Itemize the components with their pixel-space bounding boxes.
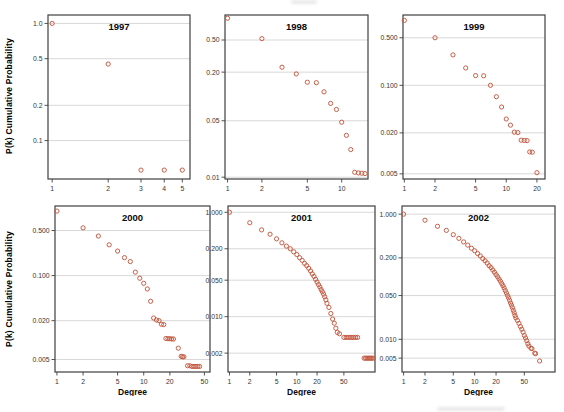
- data-point: [334, 326, 338, 330]
- y-tick-label: 0.200: [205, 245, 222, 252]
- plot-frame: [48, 15, 190, 179]
- data-point: [327, 305, 331, 309]
- y-tick-label: 0.20: [206, 69, 219, 76]
- y-tick-label: 0.050: [205, 277, 222, 284]
- x-axis-ticks: 12510: [226, 179, 346, 192]
- data-point: [423, 218, 427, 222]
- chart-1997: 1.00.50.20.1123451997: [18, 10, 195, 203]
- data-point: [334, 107, 338, 111]
- data-point: [435, 224, 439, 228]
- chart-2000: 0.5000.1000.0200.0051251020502000Degree: [25, 201, 215, 396]
- panel-2002: 1.0000.2000.0500.0100.0051251020502002De…: [372, 201, 560, 396]
- data-point: [349, 147, 353, 151]
- data-point: [332, 321, 336, 325]
- data-points: [402, 18, 539, 175]
- x-tick-label: 1: [226, 185, 230, 192]
- data-point: [138, 276, 142, 280]
- data-point: [116, 249, 120, 253]
- y-tick-label: 0.50: [206, 36, 219, 43]
- data-point: [142, 281, 146, 285]
- y-tick-label: 1.000: [379, 211, 396, 218]
- chart-1999: 0.5000.1000.0200.00512510201999: [373, 10, 550, 203]
- x-tick-label: 20: [533, 185, 541, 192]
- data-point: [225, 16, 229, 20]
- x-tick-label: 2: [260, 185, 264, 192]
- y-tick-label: 0.005: [380, 170, 397, 177]
- y-axis-title-row2: P(k) Cumulative Probability: [4, 204, 16, 374]
- x-axis-ticks: 125102050: [228, 372, 348, 385]
- data-point: [494, 95, 498, 99]
- x-tick-label: 50: [340, 378, 348, 385]
- x-axis-ticks: 1251020: [402, 179, 540, 192]
- x-tick-label: 2: [433, 185, 437, 192]
- x-tick-label: 4: [162, 185, 166, 192]
- y-tick-label: 0.010: [379, 336, 396, 343]
- faint-cropped-text-top: [291, 0, 317, 4]
- x-tick-label: 1: [228, 378, 232, 385]
- data-points: [55, 209, 202, 369]
- x-tick-label: 20: [492, 378, 500, 385]
- data-point: [149, 299, 153, 303]
- y-tick-label: 0.1: [33, 137, 43, 144]
- gridlines-and-y-ticks: 1.00.50.20.1: [33, 20, 190, 144]
- x-tick-label: 50: [521, 378, 529, 385]
- x-tick-label: 2: [106, 185, 110, 192]
- data-point: [139, 168, 143, 172]
- data-point: [478, 254, 482, 258]
- faint-cropped-text-bottom: [437, 407, 505, 411]
- plot-frame: [403, 15, 545, 179]
- plot-frame: [402, 206, 555, 372]
- y-tick-label: 0.002: [205, 350, 222, 357]
- data-point: [444, 228, 448, 232]
- chart-2001: 1.0000.2000.0500.0100.0021251020502001De…: [198, 201, 380, 396]
- x-tick-label: 2: [81, 378, 85, 385]
- y-tick-label: 0.050: [379, 292, 396, 299]
- data-point: [476, 251, 480, 255]
- x-tick-label: 1: [402, 185, 406, 192]
- y-tick-label: 0.020: [380, 129, 397, 136]
- x-axis-title: Degree: [118, 387, 147, 397]
- data-point: [508, 123, 512, 127]
- x-tick-label: 10: [471, 378, 479, 385]
- chart-2002: 1.0000.2000.0500.0100.0051251020502002De…: [372, 201, 560, 396]
- data-point: [81, 226, 85, 230]
- y-tick-label: 0.020: [32, 317, 49, 324]
- plot-frame: [228, 206, 375, 372]
- data-point: [280, 65, 284, 69]
- data-point: [538, 359, 542, 363]
- panel-year-title: 1998: [286, 21, 307, 32]
- panel-year-title: 2000: [122, 212, 143, 223]
- y-tick-label: 0.5: [33, 55, 43, 62]
- data-point: [280, 241, 284, 245]
- x-tick-label: 3: [139, 185, 143, 192]
- data-points: [50, 21, 184, 172]
- data-point: [457, 236, 461, 240]
- x-axis-title: Degree: [287, 387, 316, 397]
- data-point: [260, 228, 264, 232]
- data-point: [298, 256, 302, 260]
- x-axis-ticks: 125102050: [55, 372, 208, 385]
- data-point: [248, 221, 252, 225]
- gridlines-and-y-ticks: 1.0000.2000.0500.0100.002: [205, 209, 375, 357]
- gridlines-and-y-ticks: 1.0000.2000.0500.0100.005: [379, 211, 555, 362]
- y-tick-label: 0.010: [205, 313, 222, 320]
- x-axis-ticks: 12345: [50, 179, 184, 192]
- chart-1998: 0.500.200.050.01125101998: [195, 10, 373, 203]
- data-point: [122, 256, 126, 260]
- panel-year-title: 1997: [108, 21, 129, 32]
- panel-year-title: 1999: [463, 21, 484, 32]
- y-tick-label: 0.100: [380, 82, 397, 89]
- data-point: [268, 232, 272, 236]
- data-point: [464, 66, 468, 70]
- data-point: [314, 81, 318, 85]
- data-point: [451, 53, 455, 57]
- data-point: [96, 234, 100, 238]
- data-point: [451, 233, 455, 237]
- y-tick-label: 0.01: [206, 174, 219, 181]
- y-tick-label: 0.100: [32, 272, 49, 279]
- x-tick-label: 10: [502, 185, 510, 192]
- gridlines-and-y-ticks: 0.5000.1000.0200.005: [380, 34, 545, 177]
- x-tick-label: 1: [50, 185, 54, 192]
- panel-1999: 0.5000.1000.0200.00512510201999: [373, 10, 550, 203]
- data-point: [504, 117, 508, 121]
